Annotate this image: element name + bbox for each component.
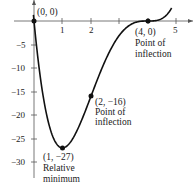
- y-tick-label-neg30: −30: [11, 157, 26, 167]
- label-inflection-2-note-1: Point of: [95, 107, 126, 117]
- label-inflection-4-coords: (4, 0): [135, 27, 156, 38]
- y-tick-label-neg25: −25: [11, 134, 26, 144]
- label-min-note-2: minimum: [43, 174, 81, 184]
- label-min-note-1: Relative: [43, 163, 75, 173]
- point-inflection-2: [89, 94, 94, 99]
- label-min-coords: (1, −27): [43, 152, 74, 163]
- x-axis-arrow-icon: [188, 19, 193, 23]
- label-inflection-2-note-2: inflection: [95, 117, 132, 127]
- x-tick-label-2: 2: [89, 25, 94, 35]
- y-tick-label-neg5: −5: [16, 40, 26, 50]
- label-inflection-4-note-1: Point of: [135, 38, 166, 48]
- y-tick-label-neg20: −20: [11, 110, 26, 120]
- point-relative-minimum: [60, 146, 65, 151]
- label-inflection-4-note-2: inflection: [135, 49, 172, 59]
- y-axis-arrow-icon: [32, 0, 36, 5]
- label-origin: (0, 0): [37, 7, 58, 18]
- y-tick-label-neg10: −10: [11, 63, 26, 73]
- x-tick-label-1: 1: [60, 25, 65, 35]
- y-tick-label-neg15: −15: [11, 87, 26, 97]
- function-graph: 1 2 5 −5 −10 −15 −20 −25 −30 (0, 0) (1, …: [0, 0, 193, 191]
- x-tick-label-5: 5: [173, 25, 178, 35]
- point-origin: [32, 19, 37, 24]
- point-inflection-4: [146, 19, 151, 24]
